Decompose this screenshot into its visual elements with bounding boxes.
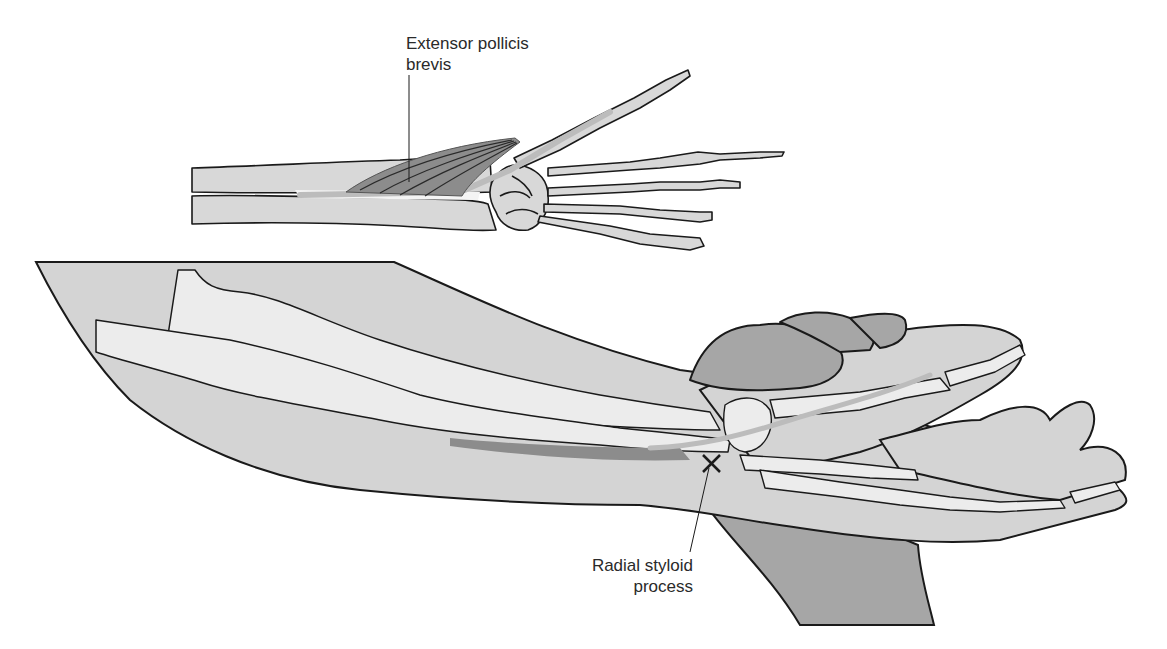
finger-1-top	[548, 152, 784, 176]
label-rsp-line2: process	[553, 576, 693, 597]
finger-2-top	[548, 180, 740, 196]
label-epb-line2: brevis	[406, 54, 529, 75]
label-rsp-line1: Radial styloid	[553, 555, 693, 576]
label-radial-styloid-process: Radial styloid process	[553, 555, 693, 597]
finger-3-top	[544, 204, 712, 222]
ulna-top	[192, 195, 496, 230]
anatomy-illustration	[0, 0, 1167, 649]
label-extensor-pollicis-brevis: Extensor pollicis brevis	[406, 33, 529, 75]
label-epb-line1: Extensor pollicis	[406, 33, 529, 54]
finger-4-top	[538, 216, 704, 250]
